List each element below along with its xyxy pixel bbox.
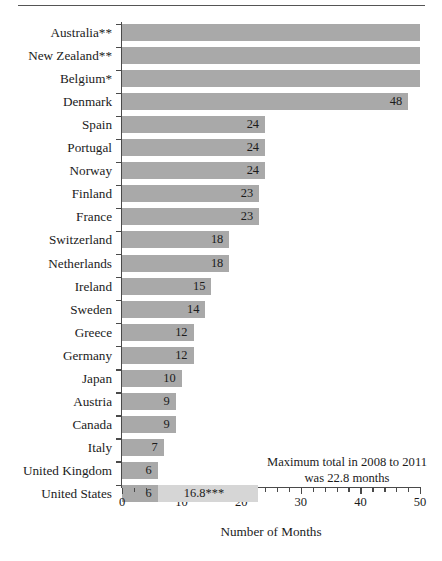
y-axis-tick [116,139,121,140]
y-axis-tick [116,461,121,462]
category-label: Ireland [0,278,112,295]
x-axis-tick-minor [289,488,290,492]
bar-row: New Zealand** [0,47,442,70]
bar-value-label: 24 [235,163,259,178]
x-axis-tick-minor [384,488,385,492]
category-label: Belgium* [0,70,112,87]
x-axis-tick-label: 30 [281,495,321,509]
bar-row: Germany12 [0,347,442,370]
x-axis-tick-minor [277,488,278,492]
bar[interactable] [122,93,408,110]
y-axis-tick [116,116,121,117]
bar-row: Spain24 [0,116,442,139]
y-axis-tick [116,254,121,255]
bar-row: Japan10 [0,370,442,393]
category-label: Australia** [0,24,112,41]
bar-value-label: 23 [229,186,253,201]
y-axis-tick [116,485,121,486]
bar-row: Finland23 [0,185,442,208]
y-axis-tick [116,47,121,48]
annotation-line-1: Maximum total in 2008 to 2011 [258,455,436,471]
y-axis-tick [116,208,121,209]
category-label: Canada [0,416,112,433]
bar-fill [122,93,408,110]
bar-row: Portugal24 [0,139,442,162]
category-label: Netherlands [0,255,112,272]
bar-row: Austria9 [0,393,442,416]
y-axis-tick [116,24,121,25]
category-label: Sweden [0,301,112,318]
category-label: New Zealand** [0,47,112,64]
bar-value-label: 9 [146,394,170,409]
bar-value-label: 48 [378,94,402,109]
category-label: Portugal [0,139,112,156]
bar-row: Netherlands18 [0,255,442,278]
bar[interactable] [122,47,420,64]
category-label: Switzerland [0,231,112,248]
y-axis-tick [116,185,121,186]
category-label: United States [0,485,112,502]
x-axis-tick-minor [134,488,135,492]
y-axis-tick [116,277,121,278]
category-label: Greece [0,324,112,341]
category-label: United Kingdom [0,462,112,479]
bar-fill [122,70,420,87]
x-axis-tick-minor [337,488,338,492]
x-axis-tick-major [420,488,421,494]
bar[interactable] [122,70,420,87]
category-label: Denmark [0,93,112,110]
x-axis-tick-minor [265,488,266,492]
bar-row: Belgium* [0,70,442,93]
y-axis-tick [116,369,121,370]
x-axis-tick-major [122,488,123,494]
x-axis-title: Number of Months [121,524,421,540]
bar-value-label: 18 [199,256,223,271]
x-axis-tick-minor [408,488,409,492]
bar-value-label: 18 [199,232,223,247]
category-label: Spain [0,116,112,133]
bar-row: Greece12 [0,324,442,347]
x-axis-tick-label: 0 [102,495,142,509]
y-axis-tick [116,162,121,163]
y-axis-tick [116,300,121,301]
x-axis-tick-label: 40 [340,495,380,509]
bar-fill [122,47,420,64]
bar-row: Canada9 [0,416,442,439]
bar-value-label: 24 [235,117,259,132]
bar-value-label: 9 [146,417,170,432]
x-axis-tick-minor [348,488,349,492]
y-axis-tick [116,231,121,232]
y-axis-tick [116,93,121,94]
x-axis-tick-major [301,488,302,494]
bar-row: Ireland15 [0,278,442,301]
bar-value-label: 12 [164,325,188,340]
x-axis-tick-minor [146,488,147,492]
bar-value-label: 12 [164,348,188,363]
bar-value-label: 15 [181,279,205,294]
bar-value-label: 24 [235,140,259,155]
x-axis-tick-major [360,488,361,494]
category-label: Austria [0,393,112,410]
y-axis-tick [116,70,121,71]
y-axis-tick [116,323,121,324]
category-label: Germany [0,347,112,364]
annotation-line-2: was 22.8 months [258,471,436,487]
x-axis-tick-minor [325,488,326,492]
x-axis-tick-label: 50 [400,495,440,509]
bar-value-label: 10 [152,371,176,386]
category-label: Italy [0,439,112,456]
bar-row: Denmark48 [0,93,442,116]
category-label: Norway [0,162,112,179]
y-axis-tick [116,392,121,393]
bar[interactable] [122,24,420,41]
category-label: Japan [0,370,112,387]
bar-value-label: 7 [134,440,158,455]
y-axis-tick [116,346,121,347]
figure-container: Australia**New Zealand**Belgium*Denmark4… [0,0,442,561]
x-axis-tick-minor [372,488,373,492]
y-axis-tick [116,415,121,416]
bar-value-label: 6 [128,463,152,478]
bar-row: Norway24 [0,162,442,185]
bar-row: Switzerland18 [0,231,442,254]
category-label: Finland [0,185,112,202]
